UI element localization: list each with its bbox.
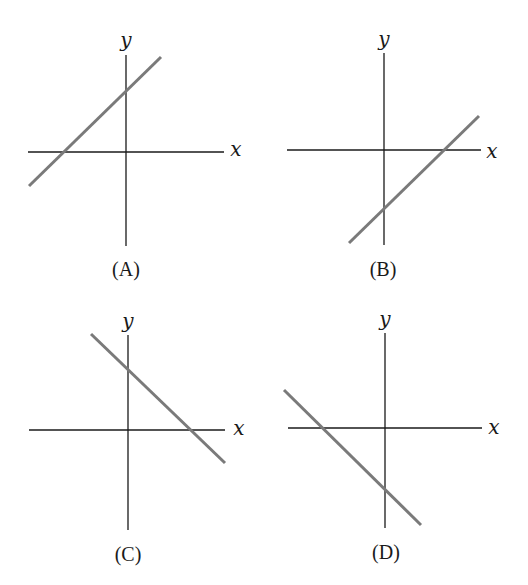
y-axis-label: y [377, 27, 390, 51]
panel-caption: (D) [372, 541, 400, 564]
panel-d: y x (D) [284, 307, 500, 564]
panel-a: y x (A) [28, 28, 242, 281]
x-axis-label: x [486, 139, 497, 163]
graph-line [91, 334, 225, 463]
graph-line [284, 390, 421, 525]
x-axis-label: x [230, 137, 241, 161]
panel-caption: (B) [370, 258, 397, 281]
panel-c: y x (C) [29, 309, 245, 566]
panel-b: y x (B) [287, 27, 498, 281]
y-axis-label: y [121, 309, 134, 333]
y-axis-label: y [378, 307, 391, 331]
graph-line [349, 116, 479, 243]
graph-line [29, 57, 161, 186]
panel-caption: (A) [112, 258, 140, 281]
x-axis-label: x [488, 415, 499, 439]
four-line-graphs-diagram: y x (A) y x (B) y x (C) y x (D) [0, 0, 528, 585]
panel-caption: (C) [115, 543, 142, 566]
x-axis-label: x [233, 416, 244, 440]
y-axis-label: y [119, 28, 132, 52]
